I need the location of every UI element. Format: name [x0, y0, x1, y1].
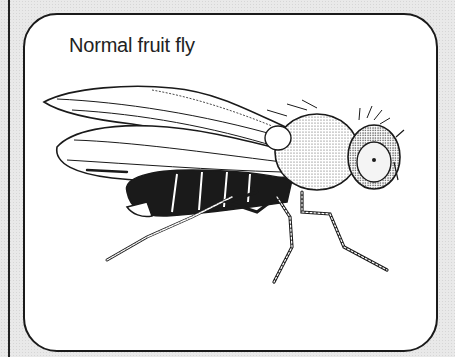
- thorax: [275, 114, 359, 190]
- scutellum: [265, 126, 291, 150]
- outer-frame-line: [8, 0, 10, 357]
- figure-panel: Normal fruit fly: [23, 13, 438, 352]
- fruit-fly-illustration: [25, 15, 436, 350]
